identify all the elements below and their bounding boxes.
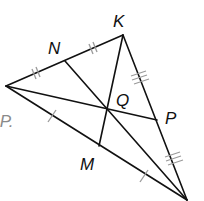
- partial-text: IP.: [0, 112, 14, 131]
- label-N: N: [48, 39, 61, 58]
- label-P: P: [165, 109, 177, 128]
- side-left-bottom: [6, 86, 187, 200]
- side-K-bottom: [123, 35, 187, 200]
- label-K: K: [113, 12, 125, 31]
- median-left-P: [6, 86, 157, 120]
- median-N-bottom: [65, 61, 187, 200]
- label-Q: Q: [116, 91, 129, 110]
- tick-marks-P-bottom: [165, 152, 183, 165]
- tick-marks-K-P: [131, 71, 149, 84]
- triangle-diagram: K N Q P M IP.: [0, 0, 204, 201]
- label-M: M: [80, 155, 95, 174]
